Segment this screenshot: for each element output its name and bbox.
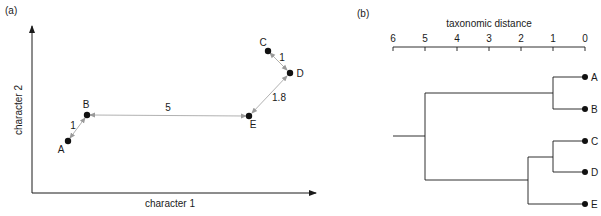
point-b (84, 112, 90, 118)
y-axis-label: character 2 (13, 85, 24, 135)
tick-label-2: 2 (518, 33, 524, 44)
leaf-d (582, 169, 588, 175)
leaf-label-a: A (591, 72, 598, 83)
tick-label-4: 4 (454, 33, 460, 44)
leaf-b (582, 106, 588, 112)
dendrogram-branches (393, 77, 585, 204)
x-axis-label: character 1 (145, 198, 195, 209)
panel-a-scatter: (a) character 1 character 2 1 5 1.8 1 A … (5, 5, 316, 209)
distance-label-a-b: 1 (70, 120, 76, 131)
distance-axis-title: taxonomic distance (446, 18, 532, 29)
leaf-label-c: C (591, 136, 598, 147)
distance-label-b-e: 5 (165, 102, 171, 113)
point-label-a: A (58, 144, 65, 155)
point-a (65, 138, 71, 144)
leaf-e (582, 201, 588, 207)
panel-b-label: (b) (357, 8, 369, 19)
edge-b-e (90, 115, 246, 116)
tick-label-6: 6 (390, 33, 396, 44)
distance-label-e-d: 1.8 (272, 92, 286, 103)
distance-axis-ticks (393, 47, 585, 51)
distance-label-d-c: 1 (279, 52, 285, 63)
point-label-d: D (296, 68, 303, 79)
tick-label-5: 5 (422, 33, 428, 44)
point-d (287, 70, 293, 76)
panel-b-dendrogram: (b) taxonomic distance 6 5 4 3 2 1 0 (357, 8, 598, 210)
leaf-a (582, 74, 588, 80)
leaf-label-d: D (591, 167, 598, 178)
leaf-c (582, 138, 588, 144)
tick-label-1: 1 (550, 33, 556, 44)
point-c (265, 48, 271, 54)
panel-a-label: (a) (5, 5, 17, 16)
point-label-b: B (83, 99, 90, 110)
leaf-label-e: E (591, 199, 598, 210)
tick-label-3: 3 (486, 33, 492, 44)
point-label-c: C (259, 37, 266, 48)
point-label-e: E (250, 119, 257, 130)
leaf-label-b: B (591, 104, 598, 115)
tick-label-0: 0 (582, 33, 588, 44)
figure: (a) character 1 character 2 1 5 1.8 1 A … (0, 0, 601, 216)
